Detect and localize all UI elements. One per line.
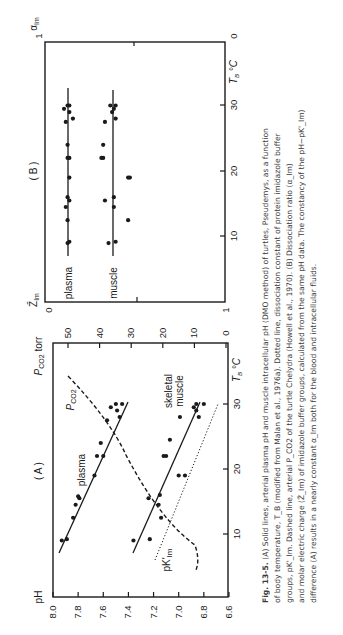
data-point xyxy=(92,473,96,477)
ph-tick-label: 7.2 xyxy=(148,605,159,618)
data-point xyxy=(101,454,105,458)
panel-b-dots xyxy=(62,103,132,245)
data-point xyxy=(64,120,68,124)
data-point xyxy=(65,218,69,222)
panel-b-x-axis-label: TB °C xyxy=(228,59,240,84)
data-point xyxy=(95,454,99,458)
data-point xyxy=(65,195,69,199)
data-point xyxy=(183,473,187,477)
panel-a-t-label-10: 10 xyxy=(231,529,242,540)
panel-a-pco2-series-label: PCO2 xyxy=(65,389,77,410)
data-point xyxy=(103,120,107,124)
data-point xyxy=(146,496,150,500)
data-point xyxy=(65,537,69,541)
caption-line: and molar electric charge (Z̄_Im) of imi… xyxy=(297,109,306,603)
panel-a-ph-ticks: 8.07.87.67.47.27.06.86.6 xyxy=(47,592,234,619)
panel-a-pk-label: pK'Im xyxy=(161,548,174,571)
ph-tick-label: 7.0 xyxy=(173,605,184,618)
data-point xyxy=(115,408,119,412)
data-point xyxy=(114,240,118,244)
caption-line: difference (A) results in a nearly const… xyxy=(309,264,318,603)
pco2-tick-label: 0 xyxy=(220,330,231,335)
data-point xyxy=(103,198,107,202)
panel-b-t-label-10: 10 xyxy=(228,231,239,242)
ph-tick-label: 7.8 xyxy=(72,605,83,618)
data-point xyxy=(202,402,206,406)
data-point xyxy=(118,415,122,419)
data-point xyxy=(197,415,201,419)
ph-tick-label: 8.0 xyxy=(47,605,58,618)
pco2-tick-label: 30 xyxy=(125,328,136,339)
data-point xyxy=(74,503,78,507)
panel-a-ph-label: pH xyxy=(33,591,44,604)
pco2-tick-label: 50 xyxy=(62,328,73,339)
data-point xyxy=(114,117,118,121)
ph-tick-label: 7.4 xyxy=(122,605,133,618)
data-point xyxy=(67,103,71,107)
pco2-tick-label: 10 xyxy=(188,328,199,339)
panel-a-muscle-label-1: skeletal xyxy=(163,374,174,408)
panel-a-pco2-label: PCO2 torr xyxy=(33,336,45,376)
pco2-tick-label: 40 xyxy=(94,328,105,339)
data-point xyxy=(99,441,103,445)
data-point xyxy=(126,218,130,222)
panel-a: 8.07.87.67.47.27.06.86.6 50403020100 30 … xyxy=(33,328,243,619)
data-point xyxy=(131,538,135,542)
panel-a-plasma-label: plasma xyxy=(76,453,87,486)
data-point xyxy=(158,493,162,497)
data-point xyxy=(128,175,132,179)
panel-b-muscle-label: muscle xyxy=(108,267,119,299)
data-point xyxy=(164,454,168,458)
data-point xyxy=(64,205,68,209)
data-point xyxy=(101,156,105,160)
data-point xyxy=(168,438,172,442)
panel-b-bottom-tick-1: 1 xyxy=(220,307,231,312)
caption-line: of body temperature, T_B (modified from … xyxy=(273,132,282,603)
data-point xyxy=(120,402,124,406)
data-point xyxy=(194,402,198,406)
data-point xyxy=(108,103,112,107)
caption-line: groups, pK'_Im. Dashed line, arterial P_… xyxy=(285,163,294,603)
panel-b-alpha-label: αIm xyxy=(28,17,40,31)
caption-line: Fig. 13-5. (A) Solid lines, arterial pla… xyxy=(261,128,270,603)
panel-b-top-tick-1: 1 xyxy=(33,33,44,38)
panel-b-t-label-0: 0 xyxy=(228,33,239,38)
panel-a-muscle-line xyxy=(133,402,200,553)
data-point xyxy=(105,418,109,422)
data-point xyxy=(71,516,75,520)
panel-b-title: ( B ) xyxy=(28,162,39,181)
data-point xyxy=(114,402,118,406)
data-point xyxy=(65,143,69,147)
data-point xyxy=(112,195,116,199)
data-point xyxy=(101,143,105,147)
data-point xyxy=(67,110,71,114)
data-point xyxy=(76,494,80,498)
data-point xyxy=(60,538,64,542)
data-point xyxy=(106,241,110,245)
data-point xyxy=(62,107,66,111)
data-point xyxy=(112,205,116,209)
data-point xyxy=(177,473,181,477)
panel-a-pco2-ticks: 50403020100 xyxy=(62,328,231,348)
panel-a-muscle-label-2: muscle xyxy=(174,375,185,407)
panel-b-frame xyxy=(45,42,225,302)
panel-a-t-label-20: 20 xyxy=(231,464,242,475)
panel-b-z-label: Z̄Im xyxy=(27,293,40,307)
data-point xyxy=(114,103,118,107)
panel-b-bottom-tick-0: 0 xyxy=(43,307,54,312)
data-point xyxy=(67,240,71,244)
panel-a-x-axis-label: TB °C xyxy=(231,357,243,382)
data-point xyxy=(156,503,160,507)
panel-b-t-label-20: 20 xyxy=(228,166,239,177)
panel-b-t-label-30: 30 xyxy=(228,100,239,111)
data-point xyxy=(71,117,75,121)
panel-b: 0 30 20 10 TB °C 1 0 1 αIm Z̄Im ( B ) pl… xyxy=(27,17,240,313)
panel-b-plasma-label: plasma xyxy=(63,266,74,299)
data-point xyxy=(159,516,163,520)
panel-a-t-label-30: 30 xyxy=(231,399,242,410)
data-point xyxy=(109,405,113,409)
ph-tick-label: 6.8 xyxy=(198,605,209,618)
panel-a-title: ( A ) xyxy=(33,462,44,480)
figure-caption: Fig. 13-5. (A) Solid lines, arterial pla… xyxy=(261,109,318,603)
ph-tick-label: 7.6 xyxy=(97,605,108,618)
